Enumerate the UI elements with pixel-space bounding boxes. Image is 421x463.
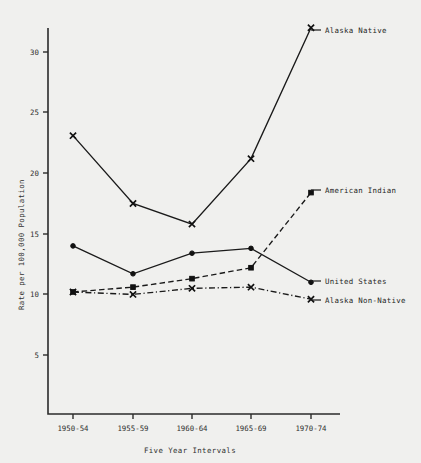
series-label-american-indian: American Indian bbox=[325, 186, 396, 195]
data-point bbox=[70, 133, 76, 139]
x-tick-label-3: 1965-69 bbox=[235, 424, 266, 433]
data-point bbox=[249, 265, 254, 270]
data-point bbox=[71, 244, 76, 249]
label-leader-lines bbox=[311, 30, 321, 300]
series-alaska-non-native bbox=[70, 284, 314, 302]
data-point bbox=[249, 246, 254, 251]
y-tick-label-25: 25 bbox=[30, 108, 39, 117]
y-tick-label-5: 5 bbox=[35, 351, 39, 360]
data-point bbox=[189, 221, 195, 227]
data-point bbox=[190, 276, 195, 281]
x-tick-label-1: 1955-59 bbox=[117, 424, 148, 433]
chart-canvas: 30 25 20 15 10 5 Rate per 100,000 Popula… bbox=[0, 0, 421, 463]
series-label-alaska-native: Alaska Native bbox=[325, 26, 387, 35]
y-axis-title: Rate per 100,000 Population bbox=[17, 179, 26, 310]
data-point bbox=[248, 156, 254, 162]
y-axis-tick-labels: 30 25 20 15 10 5 bbox=[30, 48, 39, 360]
x-axis-tick-labels: 1950-54 1955-59 1960-64 1965-69 1970-74 bbox=[57, 424, 327, 433]
x-tick-label-2: 1960-64 bbox=[176, 424, 208, 433]
series-layer bbox=[70, 25, 314, 303]
series-path bbox=[73, 28, 311, 224]
y-tick-label-10: 10 bbox=[30, 290, 39, 299]
y-tick-label-20: 20 bbox=[30, 169, 39, 178]
series-label-alaska-non-native: Alaska Non-Native bbox=[325, 296, 406, 305]
series-american-indian bbox=[71, 190, 314, 294]
x-tick-label-0: 1950-54 bbox=[57, 424, 89, 433]
data-point bbox=[131, 271, 136, 276]
y-tick-label-15: 15 bbox=[30, 230, 39, 239]
series-alaska-native bbox=[70, 25, 314, 228]
series-label-united-states: United States bbox=[325, 277, 387, 286]
x-tick-label-4: 1970-74 bbox=[295, 424, 327, 433]
data-point bbox=[190, 251, 195, 256]
data-point bbox=[131, 285, 136, 290]
data-point bbox=[309, 190, 314, 195]
line-chart: 30 25 20 15 10 5 Rate per 100,000 Popula… bbox=[0, 0, 421, 463]
x-axis-title: Five Year Intervals bbox=[144, 446, 236, 455]
data-point bbox=[130, 200, 136, 206]
y-tick-label-30: 30 bbox=[30, 48, 39, 57]
